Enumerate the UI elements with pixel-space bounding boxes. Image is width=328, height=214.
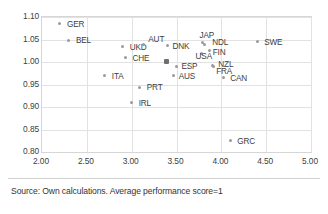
source-note: Source: Own calculations. Average perfor… (11, 186, 223, 196)
y-tick-label: 0.95 (5, 80, 39, 88)
x-tick-label: 4.00 (200, 157, 240, 165)
data-point-fin (208, 49, 211, 52)
scatter-chart-figure: GERBELUKDCHEAUTITAPRTIRLDNKESPAUSJAPNDLU… (0, 0, 328, 214)
gridline-horizontal (42, 62, 311, 63)
data-point-label-prt: PRT (147, 84, 163, 92)
x-tick-label: 5.00 (290, 157, 328, 165)
reference-marker (164, 59, 169, 64)
data-point-dnk (166, 44, 169, 47)
data-point-swe (256, 40, 259, 43)
data-point-fra (212, 65, 215, 68)
data-point-ndl (203, 43, 206, 46)
data-point-irl (130, 101, 133, 104)
y-tick-label: 0.80 (5, 147, 39, 155)
y-tick-label: 1.00 (5, 57, 39, 65)
data-point-label-fin: FIN (213, 49, 226, 57)
gridline-horizontal (42, 107, 311, 108)
data-point-esp (175, 65, 178, 68)
data-point-label-dnk: DNK (173, 43, 190, 51)
gridline-horizontal (42, 17, 311, 18)
data-point-grc (229, 139, 232, 142)
data-point-label-aut: AUT (148, 36, 164, 44)
x-tick-label: 3.00 (111, 157, 151, 165)
source-divider (8, 178, 320, 179)
x-tick-label: 2.00 (21, 157, 61, 165)
y-tick-label: 1.05 (5, 35, 39, 43)
data-point-label-grc: GRC (237, 138, 255, 146)
data-point-label-ger: GER (67, 21, 84, 29)
data-point-label-che: CHE (132, 55, 149, 63)
data-point-prt (138, 86, 141, 89)
data-point-label-ndl: NDL (212, 39, 228, 47)
data-point-label-aus: AUS (179, 73, 195, 81)
gridline-horizontal (42, 85, 311, 86)
data-point-label-swe: SWE (264, 39, 282, 47)
data-point-can (222, 76, 225, 79)
data-point-che (124, 56, 127, 59)
data-point-aus (172, 74, 175, 77)
data-point-bel (67, 39, 70, 42)
plot-area: GERBELUKDCHEAUTITAPRTIRLDNKESPAUSJAPNDLU… (41, 16, 312, 153)
gridline-vertical (311, 17, 312, 152)
y-tick-label: 1.10 (5, 12, 39, 20)
data-point-label-esp: ESP (182, 63, 198, 71)
data-point-label-can: CAN (230, 75, 247, 83)
data-point-ita (103, 74, 106, 77)
data-point-ger (58, 22, 61, 25)
y-tick-label: 0.90 (5, 102, 39, 110)
data-point-ukd (121, 45, 124, 48)
y-tick-label: 0.85 (5, 125, 39, 133)
data-point-label-ita: ITA (112, 73, 124, 81)
x-tick-label: 3.50 (156, 157, 196, 165)
data-point-label-bel: BEL (76, 37, 91, 45)
data-point-label-usa: USA (196, 53, 212, 61)
gridline-horizontal (42, 130, 311, 131)
data-point-label-irl: IRL (139, 100, 151, 108)
x-tick-label: 2.50 (66, 157, 106, 165)
x-tick-label: 4.50 (245, 157, 285, 165)
